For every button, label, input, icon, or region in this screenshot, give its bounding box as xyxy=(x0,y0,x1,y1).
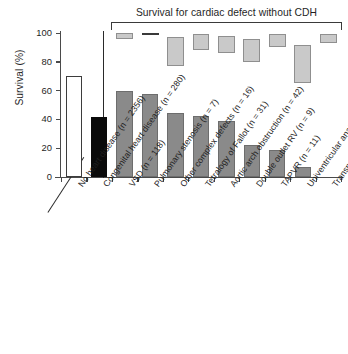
x-axis-line xyxy=(55,177,343,178)
group-bracket xyxy=(111,22,343,30)
confidence-interval-box xyxy=(218,36,235,53)
y-axis-tick-label: 20 xyxy=(26,143,52,152)
y-axis-tick-label: 60 xyxy=(26,86,52,95)
y-axis-tick xyxy=(56,119,60,120)
y-axis-tick xyxy=(56,90,60,91)
confidence-interval-box xyxy=(243,39,260,62)
x-axis-tick xyxy=(61,178,62,182)
confidence-interval-box xyxy=(142,33,159,35)
confidence-interval-box xyxy=(294,45,311,84)
bar xyxy=(66,76,82,177)
confidence-interval-box xyxy=(269,34,286,47)
y-axis-title: Survival (%) xyxy=(14,18,25,138)
chart-title: Survival for cardiac defect without CDH xyxy=(136,7,317,18)
y-axis-tick-label: 0 xyxy=(26,172,52,181)
survival-bar-chart: Survival for cardiac defect without CDH … xyxy=(0,0,348,354)
y-axis-tick xyxy=(56,148,60,149)
y-axis-tick xyxy=(56,33,60,34)
y-axis-tick-label: 40 xyxy=(26,114,52,123)
y-axis-tick xyxy=(56,61,60,62)
confidence-interval-box xyxy=(167,37,184,66)
y-axis-tick-label: 80 xyxy=(26,57,52,66)
confidence-interval-box xyxy=(193,34,210,50)
confidence-interval-box xyxy=(116,33,133,39)
confidence-interval-box xyxy=(320,34,337,43)
y-axis-tick-label: 100 xyxy=(26,28,52,37)
